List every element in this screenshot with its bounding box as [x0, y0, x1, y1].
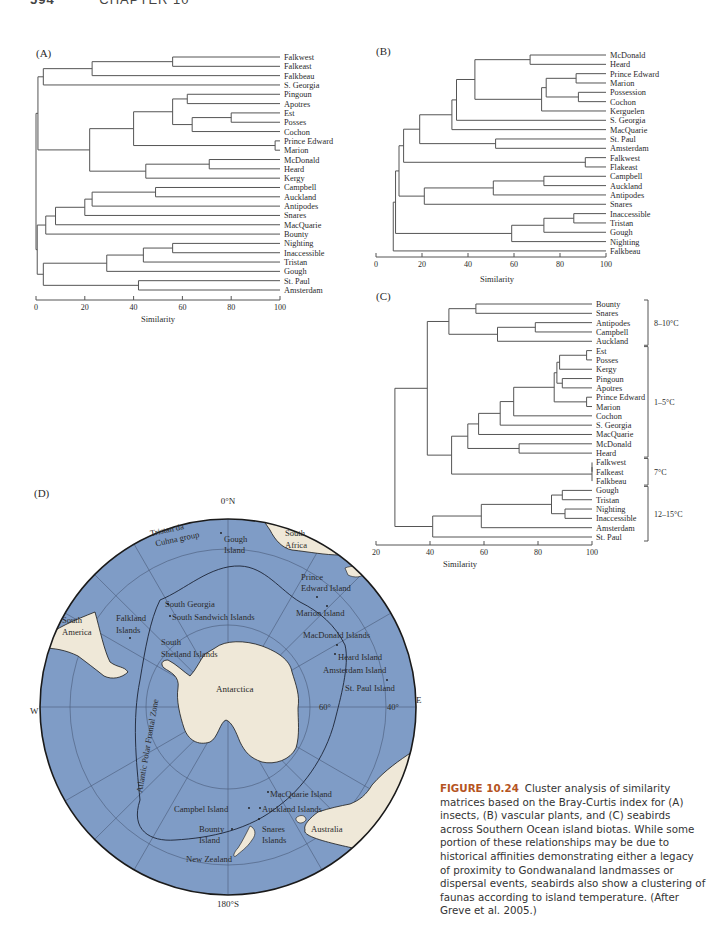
leaf-label: MacQuarie	[596, 430, 634, 439]
label-south-africa-1: South	[285, 528, 306, 538]
leaf-label: Heard	[596, 449, 617, 458]
leaf-label: S. Georgia	[596, 421, 632, 430]
leaf-label: Antipodes	[596, 319, 630, 328]
label-heard: Heard Island	[338, 652, 383, 662]
leaf-label: Cochon	[596, 412, 623, 421]
label-south-shetland-2: Shetland Islands	[161, 649, 218, 659]
leaf-label: Est	[596, 347, 607, 356]
label-bounty-2: Island	[199, 835, 221, 845]
x-tick-label: 60	[480, 548, 488, 557]
label-marion: Marion Island	[296, 608, 345, 618]
leaf-label: Tristan	[596, 496, 620, 505]
label-falkland-1: Falkland	[116, 613, 147, 623]
label-bounty-1: Bounty	[199, 824, 225, 834]
temperature-group-label: 12–15°C	[654, 510, 683, 519]
leaf-label: Marion	[596, 403, 621, 412]
caption-text: Cluster analysis of similarity matrices …	[440, 782, 705, 916]
label-amsterdam: Amsterdam Island	[323, 665, 387, 675]
leaf-label: Posses	[596, 356, 618, 365]
label-south-africa-2: Africa	[285, 540, 307, 550]
label-prince-edward-2: Edward Island	[301, 583, 352, 593]
label-macdonald: MacDonald Islands	[303, 630, 371, 640]
label-gough-1: Gough	[224, 534, 248, 544]
label-north: 0°N	[221, 496, 236, 506]
figure-label: FIGURE 10.24	[440, 782, 519, 794]
label-gough-2: Island	[224, 545, 246, 555]
label-south-sandwich: South Sandwich Islands	[172, 612, 255, 622]
leaf-label: McDonald	[596, 440, 632, 449]
leaf-label: Campbell	[596, 328, 629, 337]
label-lat-60: 60°	[319, 702, 331, 712]
label-south: 180°S	[217, 899, 239, 909]
leaf-label: Amsterdam	[596, 524, 635, 533]
leaf-label: Bounty	[596, 300, 621, 309]
label-campbel: Campbel Island	[174, 804, 229, 814]
leaf-label: Falkbeau	[596, 477, 626, 486]
temperature-group-label: 7°C	[654, 468, 667, 477]
leaf-label: Kergy	[596, 365, 617, 374]
figure-caption: FIGURE 10.24Cluster analysis of similari…	[440, 782, 706, 918]
label-auckland: Auckland Islands	[262, 804, 323, 814]
label-snares-1: Snares	[262, 824, 286, 834]
temperature-brackets: 8–10°C1–5°C7°C12–15°C	[644, 300, 683, 541]
label-antarctica: Antarctica	[216, 684, 253, 694]
leaf-label: Gough	[596, 486, 619, 495]
leaf-label: Apotres	[596, 384, 622, 393]
leaf-label: Falkwest	[596, 458, 627, 467]
land-tasmania	[296, 816, 306, 823]
leaf-label: Snares	[596, 309, 618, 318]
leaf-label: Falkeast	[596, 468, 624, 477]
label-new-zealand: New Zealand	[186, 854, 233, 864]
leaf-label: Pingoun	[596, 375, 625, 384]
leaf-labels-c: BountySnaresAntipodesCampbellAucklandEst…	[596, 300, 646, 542]
globe	[40, 514, 417, 895]
leaf-label: Inaccessible	[596, 514, 637, 523]
label-south-shetland-1: South	[161, 637, 182, 647]
temperature-group-label: 8–10°C	[654, 319, 679, 328]
leaf-label: Auckland	[596, 337, 629, 346]
label-falkland-2: Islands	[116, 625, 141, 635]
map-panel-d: (D) 0°N	[0, 0, 460, 944]
label-south-georgia: South Georgia	[165, 599, 215, 609]
label-australia: Australia	[311, 824, 343, 834]
x-tick-label: 100	[586, 548, 598, 557]
temperature-group-label: 1–5°C	[654, 398, 675, 407]
label-south-america-2: America	[62, 627, 92, 637]
label-prince-edward-1: Prince	[301, 572, 323, 582]
x-tick-label: 80	[534, 548, 542, 557]
label-st-paul: St. Paul Island	[345, 683, 396, 693]
label-snares-2: Islands	[262, 835, 287, 845]
label-south-america-1: South	[62, 615, 83, 625]
label-macquarie: MacQuarie Island	[270, 789, 333, 799]
leaf-label: St. Paul	[596, 533, 623, 542]
label-west: W	[30, 706, 39, 716]
label-lat-40: 40°	[387, 702, 399, 712]
leaf-label: Prince Edward	[596, 393, 646, 402]
leaf-label: Nighting	[596, 505, 626, 514]
panel-label-d: (D)	[34, 487, 50, 500]
label-east: E	[416, 695, 422, 705]
